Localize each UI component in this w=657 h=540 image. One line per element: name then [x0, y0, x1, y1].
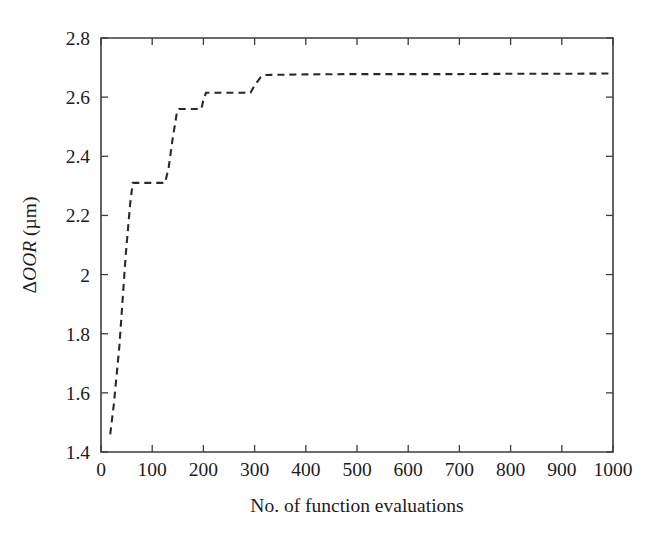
chart-figure: 01002003004005006007008009001000 1.41.61… — [0, 0, 657, 540]
y-axis-title: ΔOOR (µm) — [19, 197, 41, 294]
y-tick-label-2.6: 2.6 — [66, 87, 91, 108]
x-tick-label-400: 400 — [291, 459, 320, 480]
x-tick-label-100: 100 — [138, 459, 167, 480]
y-tick-label-2.8: 2.8 — [66, 28, 90, 49]
y-tick-label-2: 2 — [80, 265, 90, 286]
x-tick-label-600: 600 — [394, 459, 423, 480]
y-axis-title-delta: Δ — [19, 281, 40, 294]
x-tick-label-1000: 1000 — [594, 459, 633, 480]
x-tick-label-300: 300 — [240, 459, 269, 480]
y-tick-label-1.6: 1.6 — [66, 383, 91, 404]
y-axis-title-units: (µm) — [19, 197, 41, 241]
y-tick-label-2.4: 2.4 — [66, 146, 91, 167]
x-tick-label-800: 800 — [496, 459, 525, 480]
chart-canvas: 01002003004005006007008009001000 1.41.61… — [0, 0, 657, 540]
y-tick-label-2.2: 2.2 — [66, 205, 90, 226]
x-tick-label-500: 500 — [342, 459, 371, 480]
svg-text:ΔOOR (µm): ΔOOR (µm) — [19, 197, 41, 294]
y-axis-title-italic: OOR — [19, 241, 40, 281]
y-tick-label-1.4: 1.4 — [66, 442, 91, 463]
x-axis-title: No. of function evaluations — [250, 495, 463, 516]
y-tick-label-1.8: 1.8 — [66, 324, 90, 345]
x-tick-label-0: 0 — [96, 459, 106, 480]
x-tick-label-700: 700 — [445, 459, 474, 480]
x-tick-label-200: 200 — [189, 459, 218, 480]
x-tick-label-900: 900 — [547, 459, 576, 480]
